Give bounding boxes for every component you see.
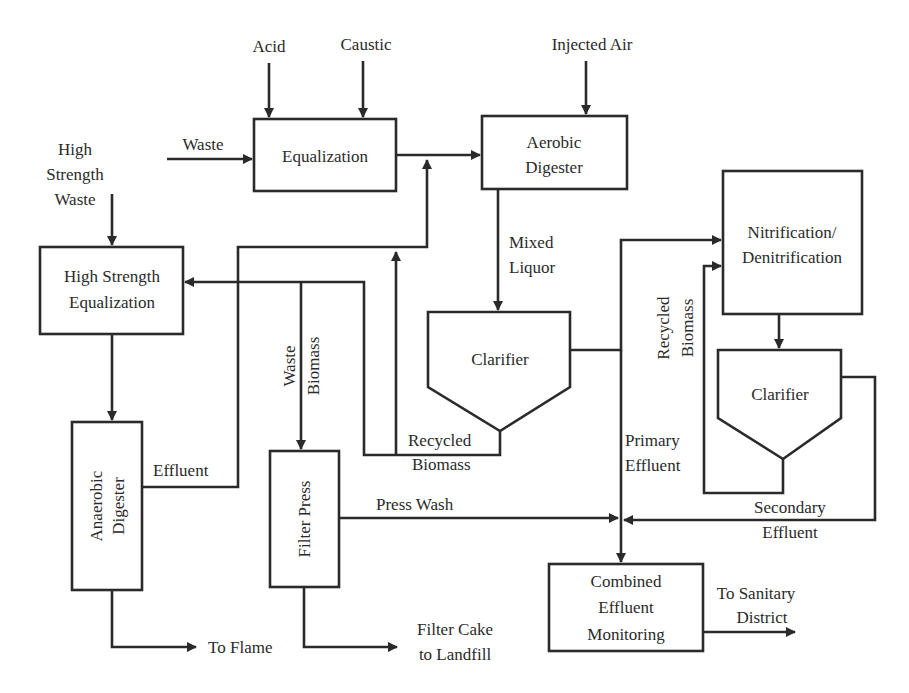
mixed-liquor-label-1: Mixed — [509, 233, 554, 252]
press-wash-label: Press Wash — [376, 495, 454, 514]
filter-press-label: Filter Press — [295, 481, 314, 558]
equalization-label: Equalization — [282, 147, 368, 166]
primary-effluent-label-1: Primary — [625, 431, 680, 450]
filter-cake-label-2: to Landfill — [419, 645, 492, 664]
secondary-effluent-label-1: Secondary — [754, 498, 826, 517]
clarifier-2-shape — [718, 350, 841, 459]
anaerobic-digester-box — [72, 422, 142, 590]
recycled-biomass-1-label-2: Biomass — [412, 455, 471, 474]
hs-equalization-label-1: High Strength — [64, 267, 160, 286]
process-flow-diagram: Equalization Aerobic Digester Nitrificat… — [0, 0, 909, 693]
to-flame-arrow — [112, 590, 196, 647]
recycled-biomass-2-label-2: Biomass — [678, 299, 697, 358]
injected-air-label: Injected Air — [552, 35, 633, 54]
effluent-return-line — [142, 160, 427, 487]
nitrification-label-1: Nitrification/ — [748, 223, 837, 242]
clarifier-1-label: Clarifier — [471, 350, 529, 369]
filter-cake-arrow — [304, 587, 397, 647]
caustic-label: Caustic — [341, 35, 392, 54]
combined-label-1: Combined — [591, 572, 662, 591]
anaerobic-digester-label-2: Digester — [109, 477, 128, 535]
waste-biomass-label-2: Biomass — [304, 337, 323, 396]
clarifier-2-label: Clarifier — [751, 385, 809, 404]
combined-label-3: Monitoring — [587, 625, 665, 644]
clarifier-1-shape — [428, 312, 570, 431]
to-sanitary-label-1: To Sanitary — [717, 584, 796, 603]
aerobic-digester-box — [482, 116, 627, 189]
to-sanitary-label-2: District — [737, 608, 788, 627]
filter-cake-label-1: Filter Cake — [417, 620, 493, 639]
secondary-effluent-label-2: Effluent — [762, 523, 818, 542]
recycled-biomass-1-label-1: Recycled — [408, 431, 472, 450]
nitrification-box — [723, 171, 862, 314]
acid-label: Acid — [252, 37, 286, 56]
effluent-label: Effluent — [153, 461, 209, 480]
combined-label-2: Effluent — [598, 598, 654, 617]
mixed-liquor-label-2: Liquor — [509, 258, 556, 277]
primary-to-nitrification-arrow — [570, 240, 721, 350]
primary-effluent-label-2: Effluent — [625, 456, 681, 475]
nitrification-label-2: Denitrification — [742, 248, 843, 267]
anaerobic-digester-label-1: Anaerobic — [87, 470, 106, 541]
recycled-biomass-2-label-1: Recycled — [654, 296, 673, 360]
waste-biomass-label-1: Waste — [280, 345, 299, 386]
aerobic-digester-label-1: Aerobic — [527, 133, 582, 152]
hs-equalization-label-2: Equalization — [69, 293, 155, 312]
hs-waste-label-3: Waste — [54, 190, 95, 209]
hs-equalization-box — [40, 247, 183, 334]
to-flame-label: To Flame — [208, 638, 272, 657]
hs-waste-label-1: High — [58, 140, 93, 159]
waste-label: Waste — [182, 135, 223, 154]
hs-waste-label-2: Strength — [46, 165, 104, 184]
aerobic-digester-label-2: Digester — [525, 158, 583, 177]
